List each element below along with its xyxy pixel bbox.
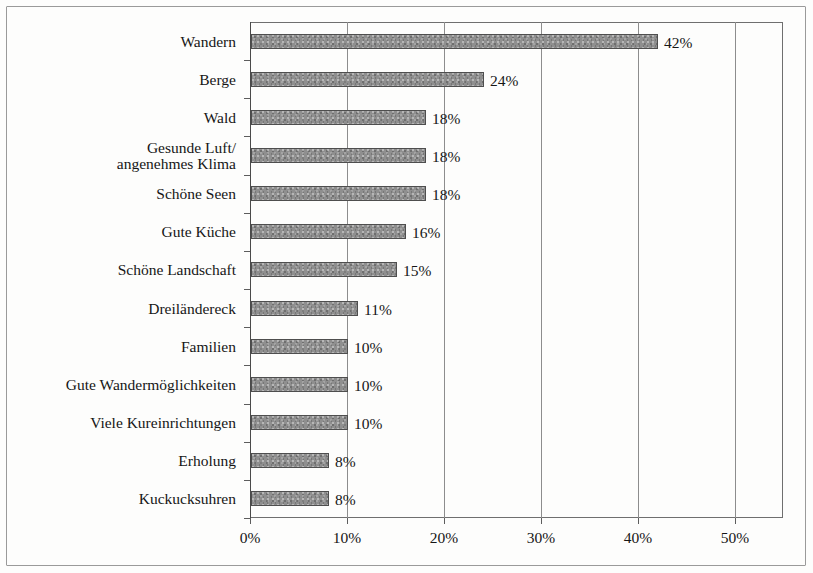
plot-border-right — [782, 22, 783, 518]
bar — [251, 301, 358, 316]
value-tick — [541, 518, 542, 524]
bar — [251, 34, 658, 49]
bar-value-label: 18% — [432, 187, 460, 202]
bar-value-label: 10% — [354, 378, 382, 393]
bar-value-label: 8% — [335, 454, 356, 469]
value-tick-label: 10% — [317, 530, 377, 546]
bar-value-label: 42% — [664, 35, 692, 50]
category-label: Gute Wandermöglichkeiten — [0, 377, 243, 393]
category-label: Viele Kureinrichtungen — [0, 415, 243, 431]
value-tick — [347, 518, 348, 524]
category-tick — [244, 365, 250, 366]
bar-value-label: 10% — [354, 340, 382, 355]
category-label: Schöne Landschaft — [0, 262, 243, 278]
plot-border-top — [250, 22, 783, 23]
category-tick — [244, 98, 250, 99]
bar — [251, 339, 348, 354]
category-label: Dreiländereck — [0, 301, 243, 317]
category-label: Wandern — [0, 34, 243, 50]
figure: WandernBergeWaldGesunde Luft/ angenehmes… — [0, 0, 813, 573]
category-label: Familien — [0, 339, 243, 355]
value-tick — [638, 518, 639, 524]
category-label: Gesunde Luft/ angenehmes Klima — [0, 140, 243, 172]
value-tick-label: 40% — [608, 530, 668, 546]
plot-area: 42%24%18%18%18%16%15%11%10%10%10%8%8% — [250, 22, 783, 518]
gridline — [444, 22, 445, 518]
gridline — [735, 22, 736, 518]
bar — [251, 110, 426, 125]
category-tick — [244, 480, 250, 481]
category-label: Schöne Seen — [0, 186, 243, 202]
category-label: Gute Küche — [0, 224, 243, 240]
bar-value-label: 11% — [364, 302, 392, 317]
bar-value-label: 8% — [335, 492, 356, 507]
category-label: Berge — [0, 72, 243, 88]
bar-value-label: 18% — [432, 111, 460, 126]
category-tick — [244, 442, 250, 443]
category-tick — [244, 175, 250, 176]
plot-border-bottom — [250, 517, 783, 518]
category-tick — [244, 404, 250, 405]
bar — [251, 415, 348, 430]
category-label: Wald — [0, 110, 243, 126]
category-tick — [244, 327, 250, 328]
bar-value-label: 16% — [412, 225, 440, 240]
bar — [251, 491, 329, 506]
value-tick-label: 20% — [414, 530, 474, 546]
bar-value-label: 10% — [354, 416, 382, 431]
bar — [251, 453, 329, 468]
bar — [251, 224, 406, 239]
value-tick — [735, 518, 736, 524]
category-tick — [244, 60, 250, 61]
bar — [251, 377, 348, 392]
bar-value-label: 15% — [403, 263, 431, 278]
category-tick — [244, 136, 250, 137]
bar-value-label: 24% — [490, 73, 518, 88]
value-tick-label: 0% — [220, 530, 280, 546]
bar — [251, 72, 484, 87]
gridline — [541, 22, 542, 518]
category-label: Kuckucksuhren — [0, 491, 243, 507]
category-tick — [244, 251, 250, 252]
category-tick — [244, 213, 250, 214]
gridline — [638, 22, 639, 518]
category-label: Erholung — [0, 453, 243, 469]
category-tick — [244, 289, 250, 290]
bar — [251, 148, 426, 163]
value-tick — [444, 518, 445, 524]
bar-value-label: 18% — [432, 149, 460, 164]
bar — [251, 262, 397, 277]
value-tick-label: 50% — [705, 530, 765, 546]
bar — [251, 186, 426, 201]
value-tick-label: 30% — [511, 530, 571, 546]
value-tick — [250, 518, 251, 524]
